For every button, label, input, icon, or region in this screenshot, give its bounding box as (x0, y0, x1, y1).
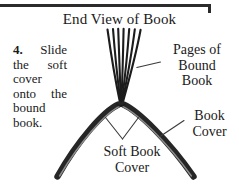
label-pages-line-3: Book (159, 73, 235, 89)
label-pages-line-2: Bound (159, 58, 235, 74)
leader-soft-cover-right (123, 118, 139, 140)
label-book-cover: Book Cover (182, 108, 237, 139)
leader-soft-cover-left (106, 118, 123, 140)
label-soft-book-cover: Soft Book Cover (85, 144, 179, 175)
leader-pages-of-bound-book (137, 62, 161, 68)
leader-book-cover (160, 121, 184, 137)
pages-of-bound-book-group (108, 29, 141, 104)
label-soft-cover-line-1: Soft Book (85, 144, 179, 160)
figure-canvas: End View of Book 4. Slide the soft cover… (0, 0, 239, 184)
label-soft-cover-line-2: Cover (85, 160, 179, 176)
label-pages-line-1: Pages of (159, 42, 235, 58)
label-book-cover-line-2: Cover (182, 124, 237, 140)
label-book-cover-line-1: Book (182, 108, 237, 124)
label-pages-of-bound-book: Pages of Bound Book (159, 42, 235, 89)
